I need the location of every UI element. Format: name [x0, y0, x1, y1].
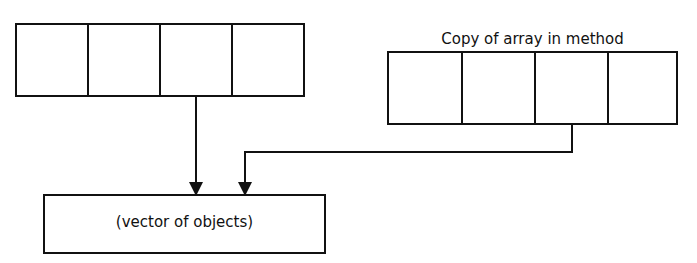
vector-box-label: (vector of objects): [44, 213, 325, 231]
right-arrow-line: [245, 124, 572, 184]
right-array-title: Copy of array in method: [388, 30, 677, 48]
arrowhead-icon: [238, 182, 252, 196]
right-array: [388, 52, 677, 124]
arrowhead-icon: [189, 182, 203, 196]
left-array: [16, 24, 304, 96]
right-array-outline: [388, 52, 677, 124]
